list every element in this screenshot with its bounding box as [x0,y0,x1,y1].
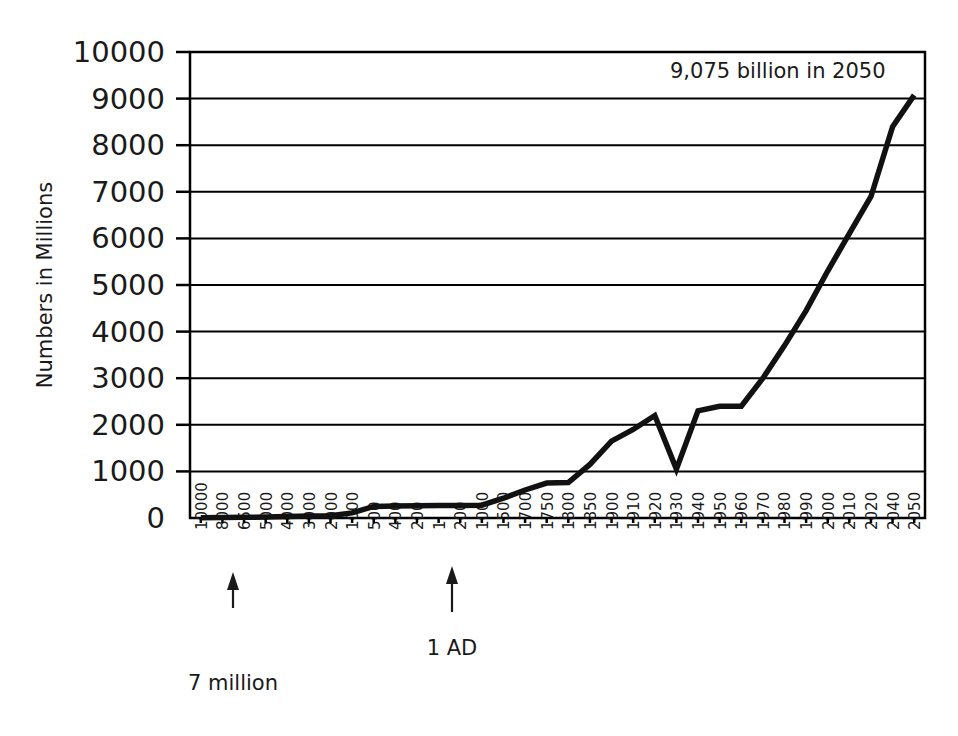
x-tick-label: 1910 [625,492,643,530]
x-tick-label: 2010 [841,492,859,530]
y-tick-label: 7000 [91,175,165,209]
x-tick-label: 1950 [712,492,730,530]
x-tick-labels-group: 1000080006500500040003000200010005004002… [193,482,924,530]
y-tick-label: 10000 [73,35,165,69]
x-tick-label: 1700 [517,492,535,530]
y-tick-label: 4000 [91,315,165,349]
y-axis-title: Numbers in Millions [33,182,57,388]
x-tick-label: 1970 [755,492,773,530]
x-tick-label: 1850 [582,492,600,530]
y-tick-label: 1000 [91,454,165,488]
x-tick-label: 2050 [906,492,924,530]
x-tick-label: 1900 [604,492,622,530]
population-growth-chart: 0100020003000400050006000700080009000100… [0,0,958,736]
x-tick-label: 2000 [323,492,341,530]
x-tick-label: 2040 [885,492,903,530]
x-tick-label: 8000 [214,492,232,530]
population-line-series [201,95,914,518]
y-tick-label: 8000 [91,128,165,162]
y-tick-label: 2000 [91,408,165,442]
epoch-callout-arrow [446,566,458,612]
x-tick-label: 1800 [560,492,578,530]
x-tick-label: 2000 [820,492,838,530]
gridlines-group [190,99,925,472]
start-value-callout-arrow [227,572,239,608]
y-tick-label: 3000 [91,361,165,395]
y-tick-label: 0 [147,501,165,535]
x-tick-label: 3000 [301,492,319,530]
x-tick-label: 4000 [279,492,297,530]
epoch-callout-label: 1 AD [427,636,478,660]
x-tick-label: 1960 [733,492,751,530]
x-tick-label: 1930 [668,492,686,530]
x-tick-label: 6500 [236,492,254,530]
chart-canvas: 0100020003000400050006000700080009000100… [0,0,958,736]
x-tick-label: 5000 [258,492,276,530]
y-tick-label: 6000 [91,221,165,255]
x-tick-label: 1920 [647,492,665,530]
x-tick-label: 1980 [776,492,794,530]
y-tick-label: 5000 [91,268,165,302]
end-value-callout-label: 9,075 billion in 2050 [670,59,886,83]
x-tick-label: 2020 [863,492,881,530]
x-tick-label: 1990 [798,492,816,530]
y-tick-marks-group [176,52,190,471]
x-tick-label: 1940 [690,492,708,530]
y-tick-labels-group: 0100020003000400050006000700080009000100… [73,35,165,535]
x-tick-label: 1750 [539,492,557,530]
y-tick-label: 9000 [91,82,165,116]
x-tick-label: 1000 [474,492,492,530]
start-value-callout-label: 7 million [188,671,278,695]
